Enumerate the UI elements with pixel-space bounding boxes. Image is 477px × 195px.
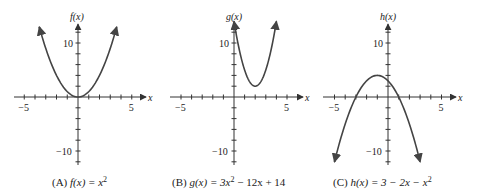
x-tick-label: −5 [175,102,186,113]
y-axis-title: g(x) [226,11,243,23]
y-tick-label: −10 [212,146,228,157]
x-tick-label: −5 [18,102,29,113]
y-tick-label: −10 [366,146,382,157]
y-tick-label: 10 [373,38,383,49]
graph-panel-c: −5510−10h(x)x(C) h(x) = 3 − 2x − x2 [323,11,463,189]
graph-caption: (B) g(x) = 3x2 − 12x + 14 [172,175,286,189]
x-axis-title: x [457,92,463,103]
y-tick-label: 10 [219,38,229,49]
function-curve [234,21,276,86]
x-tick-label: −5 [329,102,340,113]
graph-caption: (A) f(x) = x2 [52,175,107,189]
y-tick-label: 10 [63,38,73,49]
x-axis-title: x [304,92,310,103]
y-tick-label: −10 [56,146,72,157]
graph-caption: (C) h(x) = 3 − 2x − x2 [333,175,432,189]
y-axis-title: h(x) [380,11,397,23]
x-tick-label: 5 [129,102,134,113]
curve-arrow [234,21,235,24]
x-tick-label: 5 [284,102,289,113]
graph-panel-b: −5510−10g(x)x(B) g(x) = 3x2 − 12x + 14 [170,11,310,189]
graph-panel-a: −5510−10f(x)x(A) f(x) = x2 [14,11,153,189]
y-axis-title: f(x) [70,11,85,23]
function-graphs: −5510−10f(x)x(A) f(x) = x2 −5510−10g(x)x… [0,0,477,195]
x-tick-label: 5 [439,102,444,113]
curve-arrow [39,27,40,30]
x-axis-title: x [147,92,153,103]
curve-arrow [335,158,336,162]
